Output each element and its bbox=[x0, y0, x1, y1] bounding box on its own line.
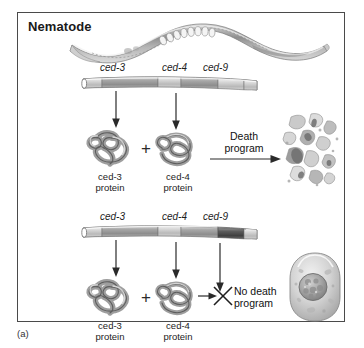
panel-ced-9-active-survival-pathway: ced-3 ced-4 ced-9 bbox=[18, 163, 346, 323]
protein-label-ced-3-bottom-line2: protein bbox=[95, 331, 124, 342]
plus-operator-bottom: + bbox=[141, 289, 151, 306]
gene-label-ced-4-bottom: ced-4 bbox=[162, 211, 187, 222]
gene-label-ced-3-top: ced-3 bbox=[100, 62, 125, 73]
gene-label-ced-9-top: ced-9 bbox=[203, 62, 228, 73]
arrow-ced-3-to-protein-bottom bbox=[110, 240, 122, 278]
protein-label-ced-4-bottom-line1: ced-4 bbox=[166, 320, 190, 331]
outcome-label-death-program-line1: Death bbox=[230, 130, 258, 142]
arrow-ced-3-to-protein-top bbox=[110, 91, 122, 129]
outcome-label-no-death-program: No death program bbox=[234, 285, 277, 309]
panel-wild-type-death-pathway: ced-3 ced-4 ced-9 bbox=[18, 13, 346, 173]
figure-caption-label: (a) bbox=[17, 328, 29, 339]
protein-icon-ced-4-bottom bbox=[152, 279, 204, 319]
arrow-ced-4-to-protein-bottom bbox=[170, 242, 182, 280]
protein-icon-ced-3-bottom bbox=[82, 275, 138, 319]
protein-label-ced-3-bottom: ced-3 protein bbox=[82, 320, 138, 342]
arrow-ced-4-to-protein-top bbox=[170, 93, 182, 131]
outcome-label-death-program: Death program bbox=[217, 130, 271, 154]
x-cross-block-marker bbox=[212, 285, 234, 307]
plus-operator-top: + bbox=[141, 140, 151, 157]
gene-label-ced-4-top: ced-4 bbox=[162, 62, 187, 73]
gene-label-ced-3-bottom: ced-3 bbox=[100, 211, 125, 222]
healthy-living-cell-icon bbox=[286, 251, 344, 323]
protein-label-ced-4-bottom-line2: protein bbox=[163, 331, 192, 342]
protein-label-ced-4-bottom: ced-4 protein bbox=[150, 320, 206, 342]
figure-root: Nematode bbox=[0, 0, 364, 348]
outcome-label-no-death-program-line2: program bbox=[234, 297, 273, 309]
figure-border-box: Nematode bbox=[17, 12, 345, 322]
protein-label-ced-3-bottom-line1: ced-3 bbox=[98, 320, 122, 331]
outcome-label-no-death-program-line1: No death bbox=[234, 285, 277, 297]
gene-label-ced-9-bottom: ced-9 bbox=[203, 211, 228, 222]
